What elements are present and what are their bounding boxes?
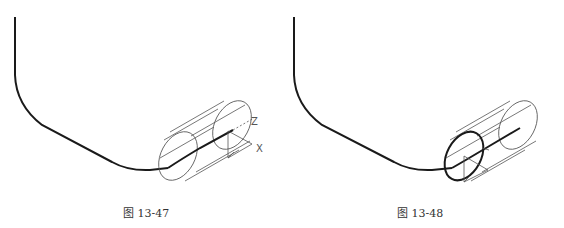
cylinder-wireframe: [446, 94, 545, 181]
axis-label-x: X: [256, 143, 263, 154]
figure-13-48: 图 13-48: [282, 0, 564, 228]
figure-caption: 图 13-47: [123, 204, 169, 220]
cylinder-wireframe: [151, 94, 259, 187]
figure-caption: 图 13-48: [397, 204, 443, 220]
axis-label-z: Z: [251, 116, 258, 127]
cad-drawing-13-47: Z X: [0, 0, 282, 228]
figure-13-47: Z X 图 13-47: [0, 0, 282, 228]
sweep-path: [294, 17, 452, 170]
sweep-path: [15, 17, 168, 170]
cad-drawing-13-48: [282, 0, 564, 228]
